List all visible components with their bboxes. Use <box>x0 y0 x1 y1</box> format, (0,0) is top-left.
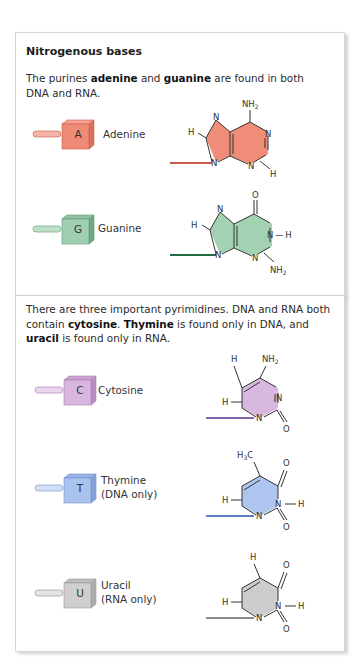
atom-label: N <box>265 129 271 139</box>
purines-intro: The purines adenine and guanine are foun… <box>26 71 326 100</box>
intro-text: is found only in RNA. <box>59 332 170 344</box>
intro-text: . <box>117 318 124 330</box>
base-name-guanine: Guanine <box>98 222 141 236</box>
base-name-adenine: Adenine <box>103 128 145 142</box>
atom-label: NH2 <box>242 99 259 110</box>
intro-text: and <box>138 72 164 84</box>
atom-label: O <box>283 424 290 434</box>
atom-label: NH2 <box>270 265 287 276</box>
cytosine-block-icon: C <box>34 375 94 405</box>
atom-label: H <box>222 495 228 505</box>
atom-label: O <box>283 560 290 570</box>
intro-bold-adenine: adenine <box>91 72 138 84</box>
base-name-label: Uracil <box>101 579 157 593</box>
base-name-thymine: Thymine (DNA only) <box>101 474 157 501</box>
thymine-block-icon: T <box>34 473 94 503</box>
atom-label: N <box>256 613 262 623</box>
atom-label: NH2 <box>262 354 279 365</box>
purines-panel: Nitrogenous bases The purines adenine an… <box>15 32 345 296</box>
base-name-label: Thymine <box>101 474 157 488</box>
atom-label: N <box>215 250 221 260</box>
atom-label: H <box>222 397 228 407</box>
uracil-block-icon: U <box>34 578 94 608</box>
adenine-structure-icon: NH2 H N N N N H <box>168 98 328 193</box>
atom-label: H <box>270 169 276 179</box>
block-letter: U <box>69 587 91 599</box>
atom-label: H <box>250 552 256 562</box>
block-letter: C <box>69 384 91 396</box>
pyrimidines-panel: There are three important pyrimidines. D… <box>15 295 345 652</box>
atom-label: N <box>213 112 219 122</box>
intro-bold-guanine: guanine <box>164 72 211 84</box>
intro-text: is found only in DNA, and <box>174 318 309 330</box>
atom-label: N <box>217 204 223 214</box>
block-letter: T <box>69 482 91 494</box>
atom-label: N <box>275 499 281 509</box>
atom-label: H <box>298 499 304 509</box>
atom-label: N <box>211 158 217 168</box>
atom-label: O <box>283 522 290 532</box>
atom-label: H <box>298 601 304 611</box>
thymine-structure-icon: H3C O H N H N O <box>204 444 334 544</box>
atom-label: H <box>231 354 237 364</box>
atom-label: N <box>248 161 254 171</box>
atom-label: N <box>276 393 282 403</box>
cytosine-structure-icon: H NH2 H N N O <box>204 350 324 440</box>
intro-text: The purines <box>26 72 91 84</box>
intro-bold-thymine: Thymine <box>124 318 174 330</box>
section-heading: Nitrogenous bases <box>26 45 142 58</box>
guanine-block-icon: G <box>32 214 92 244</box>
atom-label: N <box>256 511 262 521</box>
atom-label: H <box>188 127 194 137</box>
base-note-label: (DNA only) <box>101 488 157 502</box>
intro-bold-cytosine: cytosine <box>68 318 117 330</box>
base-name-cytosine: Cytosine <box>98 384 143 398</box>
block-letter: G <box>67 223 89 235</box>
atom-label: O <box>252 190 259 200</box>
atom-label: N — H <box>267 230 292 240</box>
guanine-structure-icon: O H N N N — H N NH2 <box>168 188 338 288</box>
atom-label: H <box>191 220 197 230</box>
atom-label: H3C <box>237 450 253 461</box>
block-letter: A <box>67 128 89 140</box>
atom-label: N <box>256 413 262 423</box>
atom-label: O <box>283 458 290 468</box>
atom-label: N <box>275 601 281 611</box>
adenine-block-icon: A <box>32 119 92 149</box>
atom-label: O <box>283 624 290 634</box>
pyrimidines-intro: There are three important pyrimidines. D… <box>26 302 336 346</box>
uracil-structure-icon: H O H N H N O <box>204 546 334 646</box>
atom-label: N <box>252 253 258 263</box>
atom-label: H <box>222 597 228 607</box>
base-note-label: (RNA only) <box>101 593 157 607</box>
base-name-uracil: Uracil (RNA only) <box>101 579 157 606</box>
intro-bold-uracil: uracil <box>26 332 59 344</box>
